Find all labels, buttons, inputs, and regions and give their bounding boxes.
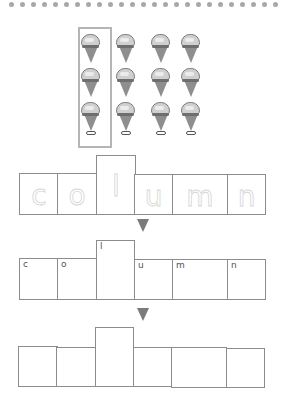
letter-box[interactable]: o	[57, 258, 97, 300]
border-dot	[218, 2, 223, 7]
down-triangle-icon	[137, 308, 149, 321]
traced-letter: l	[97, 159, 135, 214]
border-dot	[163, 2, 168, 7]
letter-box-tall[interactable]: l	[96, 240, 135, 300]
letter-box-wide[interactable]	[171, 347, 227, 388]
border-dot	[86, 2, 91, 7]
border-dot	[130, 2, 135, 7]
border-dot	[31, 2, 36, 7]
letter-label: o	[61, 259, 67, 269]
ice-cream-cone-icon	[80, 100, 102, 136]
letter-box[interactable]: n	[227, 259, 266, 300]
border-dot	[262, 2, 267, 7]
border-dot	[108, 2, 113, 7]
letter-label: m	[176, 260, 185, 270]
letter-label: u	[138, 260, 144, 270]
border-dot	[9, 2, 14, 7]
border-dot	[174, 2, 179, 7]
border-dot	[64, 2, 69, 7]
traced-letter: m	[173, 178, 227, 214]
letter-box[interactable]: u	[134, 174, 173, 215]
ice-cream-cone-icon	[150, 100, 172, 136]
ice-cream-cone-icon	[115, 100, 137, 136]
letter-box[interactable]: c	[19, 173, 59, 215]
border-dot	[119, 2, 124, 7]
ice-cream-cone-icon	[150, 66, 172, 102]
border-dot	[20, 2, 25, 7]
letter-box-wide[interactable]: m	[172, 174, 228, 215]
letter-box[interactable]	[56, 347, 96, 387]
border-dot	[229, 2, 234, 7]
border-dot	[75, 2, 80, 7]
ice-cream-cone-icon	[150, 32, 172, 68]
border-dot	[251, 2, 256, 7]
border-dot	[185, 2, 190, 7]
letter-box[interactable]	[226, 348, 265, 388]
border-dot	[240, 2, 245, 7]
ice-cream-cone-icon	[180, 66, 202, 102]
letter-box[interactable]: o	[57, 173, 97, 215]
border-dot	[196, 2, 201, 7]
border-dot	[97, 2, 102, 7]
dotted-top-border	[0, 0, 283, 10]
ice-cream-cone-icon	[180, 32, 202, 68]
border-dot	[273, 2, 278, 7]
border-dot	[207, 2, 212, 7]
letter-label: l	[100, 241, 103, 251]
border-dot	[152, 2, 157, 7]
letter-box[interactable]: n	[227, 174, 266, 215]
ice-cream-grid	[80, 32, 210, 144]
letter-box[interactable]	[18, 346, 58, 387]
letter-box-tall[interactable]	[95, 327, 134, 387]
letter-box[interactable]: c	[19, 258, 59, 300]
letter-label: c	[23, 259, 28, 269]
traced-letter: c	[20, 177, 58, 214]
traced-letter: u	[135, 178, 172, 214]
traced-letter: n	[228, 178, 265, 214]
border-dot	[141, 2, 146, 7]
ice-cream-cone-icon	[115, 32, 137, 68]
letter-box[interactable]	[133, 347, 172, 387]
traced-letter: o	[58, 177, 96, 214]
ice-cream-cone-icon	[115, 66, 137, 102]
border-dot	[53, 2, 58, 7]
border-dot	[42, 2, 47, 7]
letter-box-wide[interactable]: m	[172, 259, 228, 300]
ice-cream-cone-icon	[80, 32, 102, 68]
letter-box[interactable]: u	[134, 259, 173, 300]
ice-cream-cone-icon	[180, 100, 202, 136]
down-triangle-icon	[137, 219, 149, 232]
letter-label: n	[231, 260, 237, 270]
letter-box-tall[interactable]: l	[96, 155, 136, 215]
ice-cream-cone-icon	[80, 66, 102, 102]
